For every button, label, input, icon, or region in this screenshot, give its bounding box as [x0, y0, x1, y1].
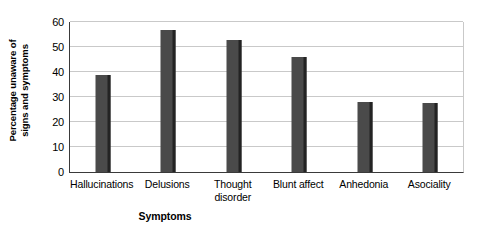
bar: [95, 75, 110, 173]
y-axis-tick-label: 30: [52, 92, 64, 103]
bar-slot: [332, 22, 398, 172]
y-axis-tick-label: 10: [52, 142, 64, 153]
bar-series: [70, 22, 463, 172]
y-axis-tick-label: 60: [52, 17, 64, 28]
x-axis-tick-label: Thought disorder: [200, 178, 266, 203]
bar: [357, 102, 372, 172]
bar-slot: [136, 22, 202, 172]
bar-slot: [70, 22, 136, 172]
y-axis-title: Percentage unaware of signs and symptoms: [0, 0, 38, 180]
y-axis-title-line-2: signs and symptoms: [19, 39, 31, 141]
y-axis-tick-label: 0: [58, 167, 64, 178]
plot-area: 0102030405060: [69, 22, 464, 173]
bar-slot: [201, 22, 267, 172]
bar-chart-figure: Percentage unaware of signs and symptoms…: [0, 0, 484, 233]
bar-slot: [398, 22, 464, 172]
bar: [226, 40, 241, 173]
x-axis-tick-label: Delusions: [135, 178, 201, 191]
bar: [292, 57, 307, 172]
x-axis-tick-label: Asociality: [397, 178, 463, 191]
y-axis-title-line-1: Percentage unaware of: [8, 39, 20, 141]
y-axis-tick-label: 20: [52, 117, 64, 128]
x-axis-tick-label: Anhedonia: [331, 178, 397, 191]
x-axis-tick-label: Blunt affect: [266, 178, 332, 191]
x-axis-tick-label: Hallucinations: [69, 178, 135, 191]
bar: [423, 103, 438, 172]
x-axis-title: Symptoms: [0, 210, 330, 222]
bar-slot: [267, 22, 333, 172]
bar: [161, 30, 176, 173]
y-axis-tick-label: 40: [52, 67, 64, 78]
y-axis-tick-label: 50: [52, 42, 64, 53]
